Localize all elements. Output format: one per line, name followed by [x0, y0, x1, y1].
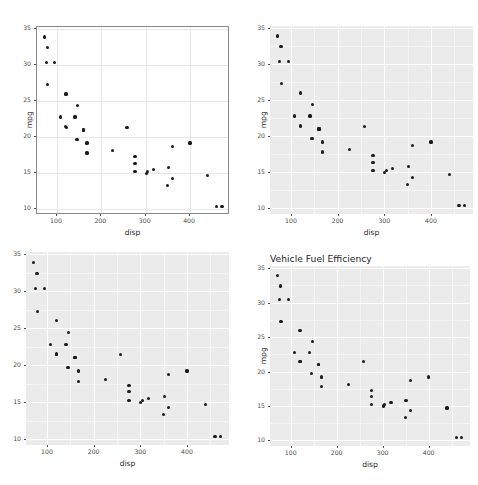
x-tick-label: 100	[50, 218, 62, 224]
gridline-y-minor	[270, 82, 473, 83]
gridline-x-major	[431, 26, 432, 214]
y-tick-label: 35	[13, 251, 21, 257]
gridline-y-major	[26, 365, 229, 366]
y-tick-mark	[24, 402, 26, 403]
y-tick-mark	[34, 100, 36, 101]
data-point	[55, 319, 58, 322]
data-point	[171, 177, 174, 180]
gridline-x-minor	[361, 26, 362, 214]
y-tick-mark	[268, 136, 270, 137]
x-tick-label: 100	[285, 218, 297, 224]
data-point	[82, 128, 85, 131]
y-tick-mark	[34, 136, 36, 137]
gridline-x-major	[57, 27, 58, 213]
gridline-y-minor	[270, 285, 470, 286]
y-tick-label: 20	[23, 133, 31, 139]
data-point	[111, 149, 114, 152]
data-point	[299, 91, 302, 94]
gridline-y-minor	[26, 310, 229, 311]
gridline-x-major	[429, 266, 430, 446]
data-point	[293, 351, 296, 354]
data-point	[287, 60, 290, 63]
data-point	[308, 114, 311, 117]
x-tick-label: 200	[332, 218, 344, 224]
y-tick-label: 20	[257, 368, 265, 374]
y-tick-label: 35	[23, 25, 31, 31]
y-tick-label: 15	[23, 169, 31, 175]
data-point	[429, 140, 432, 143]
y-tick-mark	[268, 303, 270, 304]
data-point	[77, 369, 80, 372]
data-point	[162, 413, 165, 416]
y-tick-mark	[268, 406, 270, 407]
y-tick-mark	[268, 268, 270, 269]
x-axis-title: disp	[362, 461, 378, 469]
y-axis-title: mpg	[260, 110, 268, 130]
chart-title: Vehicle Fuel Efficiency	[270, 254, 372, 263]
data-point	[46, 46, 49, 49]
gridline-x-minor	[210, 252, 211, 445]
data-point	[448, 173, 451, 176]
data-point	[279, 284, 282, 287]
gridline-x-major	[383, 266, 384, 446]
y-tick-label: 10	[257, 205, 265, 211]
x-tick-mark	[291, 214, 292, 216]
gridline-x-major	[291, 26, 292, 214]
gridline-x-major	[291, 266, 292, 446]
data-point	[73, 356, 76, 359]
data-point	[188, 141, 191, 144]
plot-top-right: 101520253035100200300400dispmpg	[238, 0, 478, 240]
y-axis-title: mpg	[260, 346, 268, 366]
data-point	[389, 401, 392, 404]
data-point	[298, 329, 301, 332]
y-tick-label: 30	[257, 61, 265, 67]
gridline-y-major	[270, 372, 470, 373]
data-point	[220, 205, 223, 208]
gridline-y-major	[270, 136, 473, 137]
x-tick-mark	[383, 446, 384, 448]
gridline-y-major	[270, 440, 470, 441]
data-point	[147, 397, 150, 400]
gridline-y-minor	[26, 273, 229, 274]
x-tick-mark	[337, 446, 338, 448]
y-tick-mark	[34, 172, 36, 173]
x-tick-label: 300	[378, 218, 390, 224]
data-point	[185, 369, 188, 372]
plot-area: 101520253035100200300400dispmpg	[238, 0, 478, 240]
y-tick-mark	[268, 172, 270, 173]
data-point	[204, 403, 207, 406]
y-tick-mark	[24, 291, 26, 292]
data-point	[49, 343, 52, 346]
gridline-x-major	[47, 252, 48, 445]
data-point	[35, 272, 38, 275]
x-axis-title: disp	[120, 460, 136, 468]
plot-bottom-left: 101520253035100200300400disp	[0, 240, 238, 485]
data-point	[311, 340, 314, 343]
x-tick-mark	[431, 214, 432, 216]
gridline-y-minor	[26, 421, 229, 422]
data-point	[409, 409, 412, 412]
data-point	[371, 161, 374, 164]
y-tick-mark	[34, 208, 36, 209]
data-point	[287, 298, 290, 301]
data-point	[213, 435, 216, 438]
data-point	[362, 360, 365, 363]
x-tick-mark	[291, 446, 292, 448]
x-tick-label: 100	[285, 450, 297, 456]
y-tick-label: 25	[257, 334, 265, 340]
gridline-y-minor	[270, 46, 473, 47]
x-tick-mark	[429, 446, 430, 448]
data-point	[85, 151, 88, 154]
data-point	[278, 298, 281, 301]
x-tick-mark	[189, 214, 190, 216]
gridline-y-minor	[270, 320, 470, 321]
y-tick-label: 20	[257, 133, 265, 139]
data-point	[317, 127, 320, 130]
data-point	[171, 145, 174, 148]
data-point	[166, 184, 169, 187]
y-tick-mark	[268, 100, 270, 101]
gridline-y-major	[270, 172, 473, 173]
y-tick-mark	[24, 328, 26, 329]
y-tick-label: 20	[13, 362, 21, 368]
y-tick-label: 15	[13, 399, 21, 405]
